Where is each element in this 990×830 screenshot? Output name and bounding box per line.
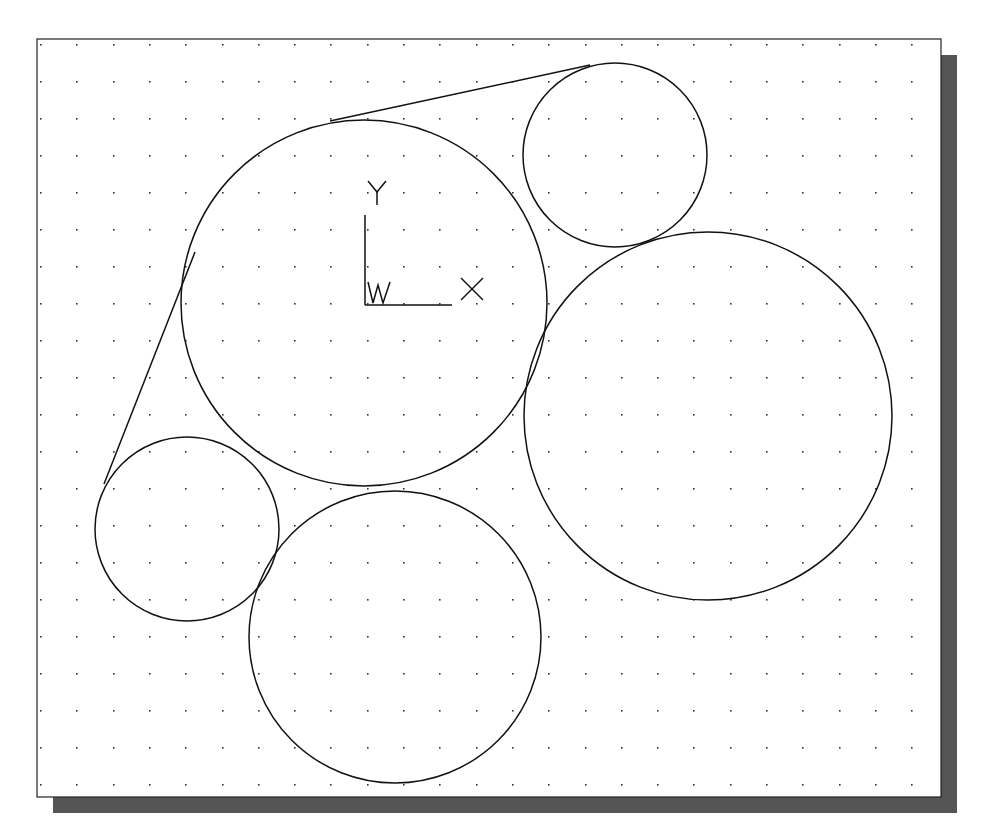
viewport-frame [37, 39, 941, 797]
cad-drawing-canvas[interactable] [0, 0, 990, 830]
